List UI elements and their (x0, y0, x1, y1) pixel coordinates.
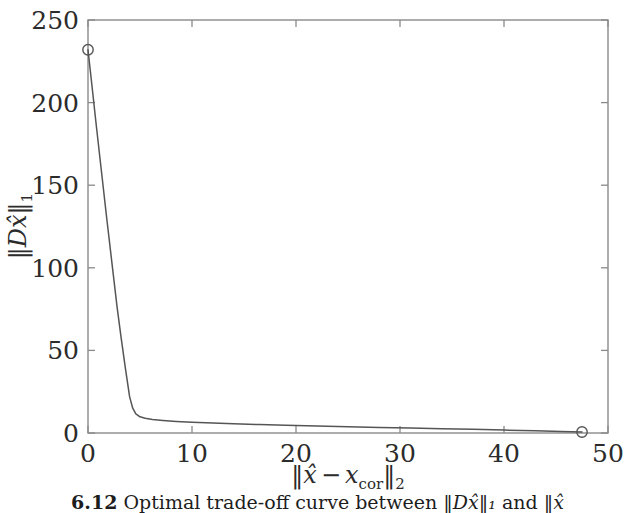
y-axis-D: D (4, 228, 32, 248)
y-axis-title: ‖Dx̂‖1 (4, 193, 36, 259)
caption-figure-number: 6.12 (71, 492, 117, 513)
caption-body: Optimal trade-off curve between (123, 492, 437, 513)
figure-container: 01020304050 050100150200250 ‖Dx̂‖1 ‖x̂−x… (0, 0, 635, 513)
y-axis-subscript: 1 (18, 193, 36, 203)
svg-text:‖x̂−xcor‖2: ‖x̂−xcor‖2 (291, 461, 404, 493)
y-axis-xhat: x̂ (4, 214, 32, 228)
svg-text:‖Dx̂‖1: ‖Dx̂‖1 (4, 193, 36, 259)
x-axis-norm-open: ‖ (291, 461, 303, 490)
x-axis-var-subscript: cor (359, 475, 384, 493)
plot-frame (88, 20, 608, 433)
y-axis-norm-open: ‖ (4, 247, 33, 259)
y-tick-label: 150 (31, 171, 79, 200)
y-axis-tick-labels: 050100150200250 (31, 6, 79, 448)
y-axis-norm-close: ‖ (4, 202, 33, 214)
y-tick-label: 50 (47, 336, 79, 365)
caption-math-one: ‖Dx̂‖₁ (443, 492, 496, 513)
x-axis-norm-close: ‖ (383, 461, 395, 490)
caption-conjunction: and (502, 492, 538, 513)
caption-math-two: ‖x̂ (544, 492, 564, 513)
y-tick-label: 100 (31, 254, 79, 283)
y-tick-label: 200 (31, 89, 79, 118)
y-tick-label: 250 (31, 6, 79, 35)
x-tick-label: 50 (592, 439, 624, 468)
trade-off-curve-plot: 01020304050 050100150200250 ‖Dx̂‖1 ‖x̂−x… (0, 0, 635, 513)
x-axis-xhat: x̂ (303, 461, 317, 489)
figure-caption: 6.12 Optimal trade-off curve between ‖Dx… (0, 492, 635, 513)
x-axis-title: ‖x̂−xcor‖2 (291, 461, 404, 493)
x-tick-label: 0 (80, 439, 96, 468)
x-tick-label: 10 (176, 439, 208, 468)
y-tick-label: 0 (63, 419, 79, 448)
x-axis-subscript: 2 (395, 475, 405, 493)
x-axis-minus: − (321, 461, 341, 489)
x-tick-label: 40 (488, 439, 520, 468)
x-axis-var: x (345, 461, 359, 489)
